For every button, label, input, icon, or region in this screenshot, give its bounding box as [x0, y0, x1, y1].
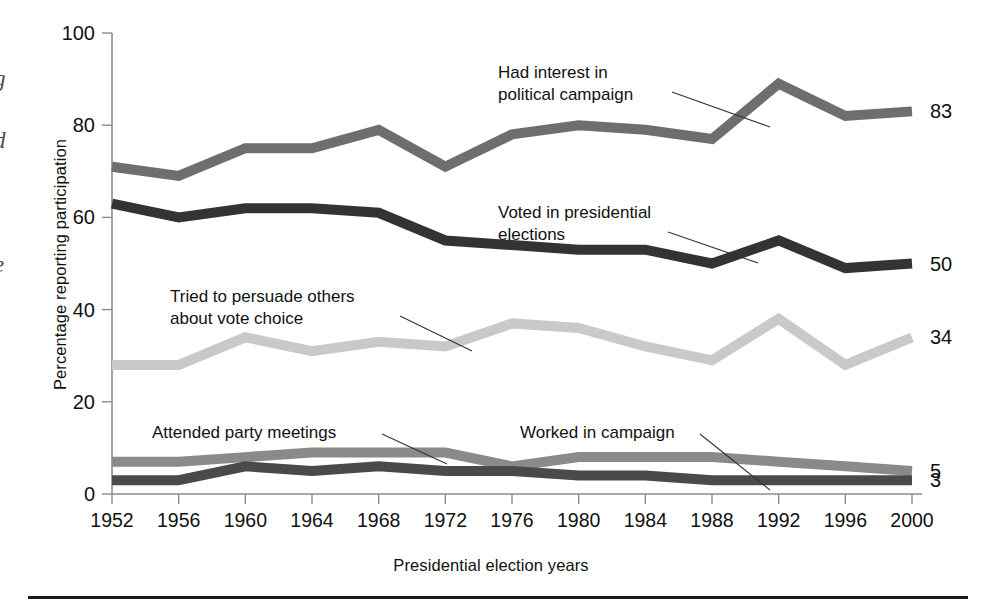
x-tick-label: 1980 — [557, 509, 601, 531]
series-end-value: 50 — [930, 253, 952, 275]
x-tick-label: 1976 — [490, 509, 533, 531]
y-tick-label: 60 — [73, 206, 95, 228]
series-layer — [112, 84, 912, 480]
annotation-label-voted: Voted in presidentialelections — [498, 203, 651, 244]
x-tick-label: 1988 — [690, 509, 733, 531]
x-tick-label: 1960 — [224, 509, 268, 531]
annotation-layer: Had interest inpolitical campaignVoted i… — [152, 63, 770, 490]
annotation-label-meetings: Attended party meetings — [152, 423, 336, 442]
x-tick-label: 1992 — [757, 509, 800, 531]
series-end-value: 34 — [930, 326, 952, 348]
x-tick-label: 1956 — [157, 509, 200, 531]
y-tick-label: 80 — [73, 114, 95, 136]
x-tick-label: 1964 — [290, 509, 334, 531]
series-line — [112, 466, 912, 480]
y-tick-label: 100 — [62, 22, 95, 44]
series-end-value: 83 — [930, 100, 952, 122]
figure-bottom-rule — [28, 596, 968, 599]
annotation-label-worked: Worked in campaign — [520, 423, 675, 442]
x-tick-label: 1972 — [424, 509, 467, 531]
annotation-label-persuade: Tried to persuade othersabout vote choic… — [170, 287, 355, 328]
x-tick-label: 1952 — [90, 509, 133, 531]
x-axis: 1952195619601964196819721976198019841988… — [90, 494, 934, 531]
x-tick-label: 2000 — [890, 509, 934, 531]
y-tick-label: 0 — [84, 483, 95, 505]
x-tick-label: 1968 — [357, 509, 400, 531]
chart-figure: g d e Percentage reporting participation… — [0, 0, 982, 614]
y-axis: 020406080100 — [62, 22, 112, 505]
x-tick-label: 1996 — [824, 509, 867, 531]
y-tick-label: 20 — [73, 391, 95, 413]
end-value-labels: 83503453 — [930, 100, 952, 491]
annotation-label-interest: Had interest inpolitical campaign — [498, 63, 633, 104]
series-end-value: 3 — [930, 469, 941, 491]
x-tick-label: 1984 — [624, 509, 668, 531]
y-tick-label: 40 — [73, 299, 95, 321]
line-chart-plot: 020406080100 195219561960196419681972197… — [0, 0, 982, 614]
